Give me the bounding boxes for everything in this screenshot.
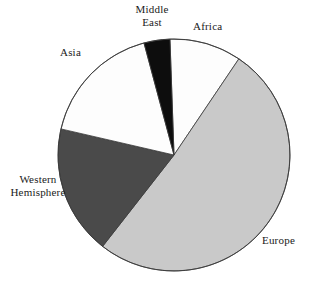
pie-chart-canvas bbox=[0, 0, 309, 282]
pie-slice-group bbox=[58, 39, 290, 271]
pie-chart: Middle East Africa Asia Western Hemisphe… bbox=[0, 0, 309, 282]
